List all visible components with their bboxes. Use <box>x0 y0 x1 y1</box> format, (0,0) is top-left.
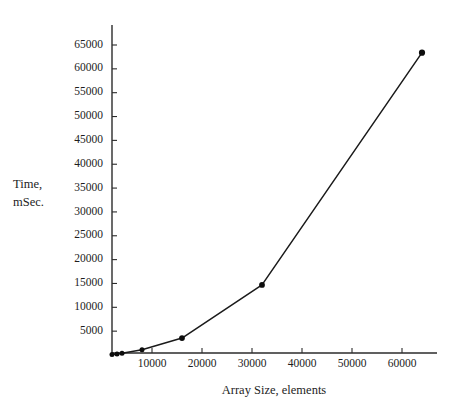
y-tick-label: 55000 <box>74 85 103 97</box>
y-tick-label: 5000 <box>80 324 103 336</box>
y-tick-label: 40000 <box>74 157 103 169</box>
y-tick-label: 45000 <box>74 133 103 145</box>
y-tick-label: 50000 <box>74 109 103 121</box>
x-tick-label: 60000 <box>388 357 417 369</box>
data-point <box>179 335 185 341</box>
y-tick-label: 25000 <box>74 228 103 240</box>
y-tick-label: 60000 <box>74 61 103 73</box>
data-point <box>259 282 265 288</box>
data-point <box>110 352 115 357</box>
data-point <box>120 351 125 356</box>
x-tick-label: 20000 <box>188 357 217 369</box>
y-tick-label: 30000 <box>74 205 103 217</box>
y-tick-label: 10000 <box>74 300 103 312</box>
y-axis-title-line1: Time, <box>13 177 42 191</box>
data-point <box>419 50 425 56</box>
data-point <box>115 352 120 357</box>
x-tick-label: 40000 <box>288 357 317 369</box>
y-tick-label: 20000 <box>74 252 103 264</box>
x-tick-label: 30000 <box>238 357 267 369</box>
x-tick-label: 10000 <box>138 357 167 369</box>
y-axis-title-line2: mSec. <box>13 195 44 209</box>
line-chart: 5000100001500020000250003000035000400004… <box>0 0 453 415</box>
x-tick-label: 50000 <box>338 357 367 369</box>
y-tick-label: 65000 <box>74 38 103 50</box>
data-point <box>140 347 145 352</box>
chart-container: 5000100001500020000250003000035000400004… <box>0 0 453 415</box>
x-axis-title: Array Size, elements <box>222 383 327 397</box>
y-tick-label: 15000 <box>74 276 103 288</box>
y-tick-label: 35000 <box>74 181 103 193</box>
